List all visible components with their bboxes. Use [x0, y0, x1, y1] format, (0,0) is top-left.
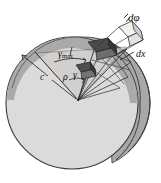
label-radius-c: c	[40, 72, 44, 82]
label-dx: dx	[136, 49, 145, 59]
label-gamma-max-subscript: max	[62, 52, 73, 59]
label-gamma: γ	[73, 70, 77, 80]
label-gamma-max: γmax	[58, 49, 73, 59]
label-d-phi: dφ	[128, 12, 140, 23]
label-rho: ρ	[63, 72, 68, 82]
torsion-shaft-figure: dφ dx γmax c ρ γ	[0, 0, 161, 183]
apex-point	[77, 99, 79, 101]
figure-canvas	[0, 0, 161, 183]
